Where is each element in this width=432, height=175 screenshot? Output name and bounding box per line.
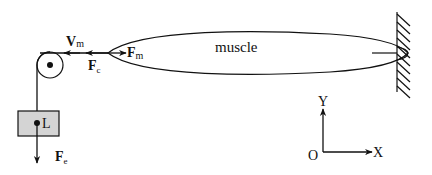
muscle-pulley-diagram: muscle Vm Fc Fm L Fe Y X O	[0, 0, 432, 175]
load-force-label: Fe	[55, 149, 68, 166]
muscle-label: muscle	[215, 39, 258, 55]
muscle-ellipse	[108, 32, 408, 75]
x-axis-label: X	[373, 145, 383, 160]
muscle-force-label: Fm	[127, 45, 144, 61]
origin-label: O	[308, 148, 318, 163]
load-label: L	[42, 116, 51, 131]
velocity-label: Vm	[66, 34, 84, 49]
y-axis-label: Y	[318, 94, 328, 109]
pulley-axle	[47, 62, 53, 68]
tendon-hook	[397, 47, 408, 60]
cable-force-label: Fc	[88, 58, 101, 75]
